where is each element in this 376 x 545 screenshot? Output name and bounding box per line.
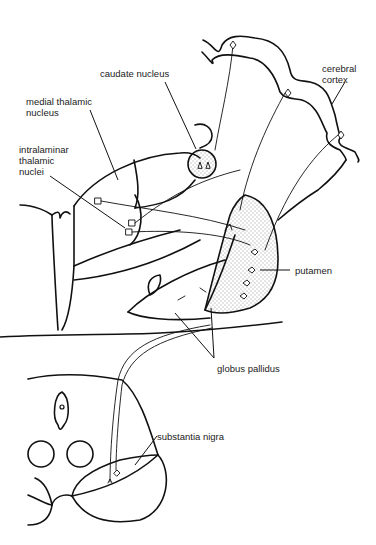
putamen bbox=[205, 195, 278, 313]
thalamus bbox=[74, 153, 200, 280]
third-ventricle bbox=[20, 205, 74, 330]
brainstem-boundary bbox=[0, 322, 282, 337]
label-substantia-nigra: substantia nigra bbox=[157, 431, 224, 442]
caudate-nucleus bbox=[188, 124, 216, 178]
label-globus-pallidus: globus pallidus bbox=[217, 363, 280, 374]
label-medial-thalamic-nucleus: medial thalamic nucleus bbox=[26, 96, 92, 118]
label-caudate-nucleus: caudate nucleus bbox=[100, 68, 169, 79]
midbrain bbox=[28, 375, 166, 525]
label-intralaminar-thalamic-nuclei: intralaminar thalamic nuclei bbox=[19, 144, 69, 177]
label-putamen: putamen bbox=[295, 265, 332, 276]
label-cerebral-cortex: cerebral cortex bbox=[322, 63, 356, 85]
